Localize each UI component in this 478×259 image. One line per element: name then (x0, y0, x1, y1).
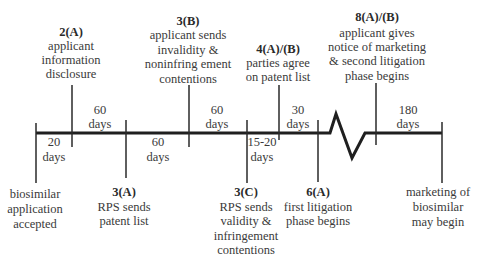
interval-value: 30 (292, 103, 305, 117)
event-text: infringement (214, 229, 279, 243)
event-8AB: 8(A)/(B) applicant gives notice of marke… (328, 10, 427, 83)
event-text: information (41, 53, 101, 67)
interval-unit: days (251, 150, 274, 164)
interval-unit: days (43, 150, 66, 164)
timeline-diagram: 2(A) applicant information disclosure 3(… (0, 0, 478, 259)
event-text: application (7, 202, 63, 216)
interval-60-days-b: 60 days (147, 135, 170, 164)
event-code: 3(B) (177, 14, 200, 28)
event-text: noninfring ement (145, 57, 232, 71)
event-marketing-may-begin: marketing of biosimilar may begin (406, 185, 471, 229)
interval-15-20-days: 15-20 days (247, 135, 276, 164)
event-text: accepted (13, 217, 57, 231)
interval-value: 60 (211, 103, 224, 117)
event-text: patent list (100, 214, 149, 228)
event-code: 4(A)/(B) (256, 42, 300, 56)
event-text: on patent list (246, 70, 311, 84)
event-text: contentions (159, 72, 217, 86)
event-text: parties agree (246, 56, 310, 70)
event-code: 8(A)/(B) (355, 10, 399, 24)
interval-value: 20 (48, 135, 61, 149)
event-application-accepted: biosimilar application accepted (7, 187, 63, 231)
interval-30-days: 30 days (287, 103, 310, 131)
interval-60-days-a: 60 days (89, 103, 112, 131)
event-code: 3(A) (112, 185, 136, 199)
event-2A: 2(A) applicant information disclosure (41, 25, 101, 81)
interval-unit: days (397, 117, 420, 131)
event-6A: 6(A) first litigation phase begins (284, 185, 353, 228)
interval-20-days: 20 days (43, 135, 66, 164)
event-text: RPS sends (97, 200, 150, 214)
event-text: contentions (217, 243, 275, 257)
event-code: 2(A) (59, 25, 83, 39)
interval-180-days: 180 days (397, 103, 420, 131)
interval-unit: days (287, 117, 310, 131)
timeline-svg: 2(A) applicant information disclosure 3(… (0, 0, 478, 259)
event-code: 3(C) (234, 185, 258, 199)
interval-unit: days (89, 117, 112, 131)
event-text: disclosure (46, 67, 97, 81)
event-text: first litigation (284, 200, 353, 214)
interval-unit: days (147, 150, 170, 164)
interval-value: 60 (94, 103, 107, 117)
event-code: 6(A) (306, 185, 330, 199)
interval-60-days-c: 60 days (206, 103, 229, 131)
event-4AB: 4(A)/(B) parties agree on patent list (246, 42, 311, 84)
event-text: phase begins (286, 214, 350, 228)
interval-unit: days (206, 117, 229, 131)
event-text: validity & (220, 214, 271, 228)
event-3C: 3(C) RPS sends validity & infringement c… (214, 185, 279, 257)
event-3A: 3(A) RPS sends patent list (97, 185, 150, 228)
event-text: phase begins (345, 69, 409, 83)
event-text: invalidity & (158, 43, 219, 57)
event-text: biosimilar (413, 200, 465, 214)
event-text: applicant gives (339, 26, 414, 40)
event-3B: 3(B) applicant sends invalidity & noninf… (145, 14, 232, 86)
event-text: applicant (48, 39, 94, 53)
event-text: & second litigation (329, 54, 426, 68)
event-text: biosimilar (10, 187, 62, 201)
event-text: may begin (412, 215, 465, 229)
event-text: applicant sends (150, 28, 227, 42)
interval-value: 15-20 (247, 135, 276, 149)
event-text: marketing of (406, 185, 471, 199)
event-text: RPS sends (219, 200, 272, 214)
event-text: notice of marketing (328, 40, 427, 54)
interval-value: 60 (152, 135, 165, 149)
interval-value: 180 (399, 103, 418, 117)
